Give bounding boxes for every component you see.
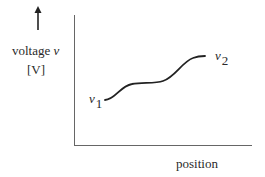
diagram-canvas [0,0,265,177]
voltage-curve [105,56,205,100]
x-axis-label: position [176,157,218,170]
end-subscript: 2 [222,53,229,68]
end-symbol: v [215,48,221,63]
y-axis-label: voltage v [12,44,59,57]
y-axis-symbol: v [54,43,60,58]
start-label: v1 [89,92,102,105]
end-label: v2 [215,49,228,62]
start-subscript: 1 [96,96,103,111]
start-symbol: v [89,91,95,106]
up-arrow-icon [35,6,42,30]
y-axis-label-text: voltage [12,43,50,58]
y-axis-unit: [V] [27,63,45,76]
